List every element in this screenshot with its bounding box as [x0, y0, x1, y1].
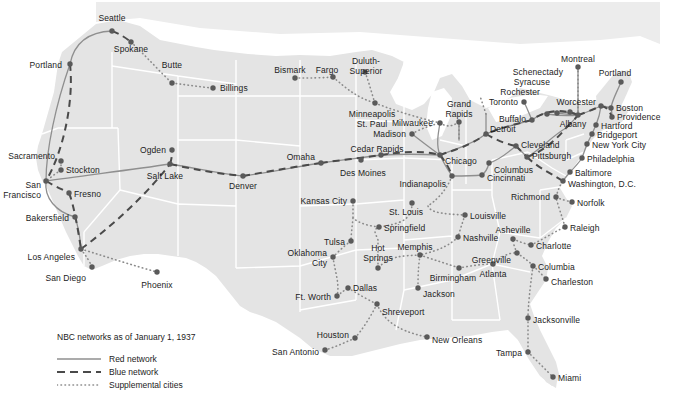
city-label-fargo: Fargo: [316, 66, 339, 76]
city-dot-seattle[interactable]: [109, 28, 114, 33]
city-dot-san-francisco[interactable]: [43, 178, 48, 183]
city-label-minneapolis: Minneapolis St. Paul: [349, 110, 395, 129]
city-dot-bismark[interactable]: [292, 75, 297, 80]
city-label-duluth: Duluth- Superior: [350, 57, 383, 76]
city-dot-houston[interactable]: [352, 335, 357, 340]
city-label-tampa: Tampa: [496, 349, 522, 359]
city-label-schenectady: Schenectady: [513, 68, 563, 78]
city-label-norfolk: Norfolk: [577, 199, 605, 209]
blue-network-swatch: [57, 367, 101, 377]
city-dot-bakersfield[interactable]: [72, 214, 77, 219]
city-dot-portland-or[interactable]: [67, 61, 72, 66]
city-dot-fresno[interactable]: [66, 190, 71, 195]
legend-title: NBC networks as of January 1, 1937: [57, 332, 195, 342]
city-dot-washington[interactable]: [560, 178, 565, 183]
city-dot-worcester[interactable]: [598, 103, 603, 108]
city-label-chicago: Chicago: [445, 157, 477, 167]
city-dot-hartford[interactable]: [593, 122, 598, 127]
city-label-rochester: Rochester: [500, 88, 540, 98]
city-dot-indianapolis[interactable]: [449, 173, 454, 178]
city-dot-rochester[interactable]: [544, 111, 549, 116]
city-dot-louisville[interactable]: [462, 212, 467, 217]
city-dot-portland-me[interactable]: [618, 79, 623, 84]
city-dot-boston[interactable]: [608, 105, 613, 110]
city-dot-charleston[interactable]: [543, 276, 548, 281]
red-network-swatch: [57, 354, 101, 364]
city-label-des-moines: Des Moines: [340, 169, 386, 179]
city-label-worcester: Worcester: [557, 98, 596, 108]
city-label-nashville: Nashville: [463, 234, 498, 244]
city-dot-ft-worth[interactable]: [334, 293, 339, 298]
city-dot-ogden[interactable]: [169, 147, 174, 152]
city-dot-los-angeles[interactable]: [78, 246, 83, 251]
city-dot-jackson[interactable]: [415, 285, 420, 290]
city-dot-schenectady[interactable]: [567, 109, 572, 114]
city-label-kansas-city: Kansas City: [301, 197, 347, 207]
city-dot-memphis[interactable]: [417, 252, 422, 257]
city-dot-dallas[interactable]: [345, 285, 350, 290]
city-dot-toronto[interactable]: [521, 99, 526, 104]
city-dot-minneapolis[interactable]: [372, 100, 377, 105]
legend-label-supplemental: Supplemental cities: [109, 380, 183, 390]
city-dot-pittsburgh[interactable]: [524, 154, 529, 159]
city-dot-denver[interactable]: [240, 173, 245, 178]
city-dot-miami[interactable]: [550, 374, 555, 379]
city-dot-greenville[interactable]: [514, 250, 519, 255]
map-legend: NBC networks as of January 1, 1937 Red n…: [57, 332, 195, 391]
city-label-bakersfield: Bakersfield: [26, 214, 69, 224]
city-dot-cleveland[interactable]: [513, 143, 518, 148]
city-dot-hot-springs[interactable]: [375, 265, 380, 270]
city-dot-shreveport[interactable]: [374, 301, 379, 306]
city-dot-san-antonio[interactable]: [322, 347, 327, 352]
city-dot-des-moines[interactable]: [358, 157, 363, 162]
city-dot-tulsa[interactable]: [348, 238, 353, 243]
city-dot-butte[interactable]: [169, 80, 174, 85]
city-dot-norfolk[interactable]: [569, 199, 574, 204]
city-dot-new-orleans[interactable]: [424, 334, 429, 339]
city-dot-sacramento[interactable]: [58, 158, 63, 163]
city-dot-buffalo[interactable]: [529, 117, 534, 122]
city-dot-madison[interactable]: [409, 131, 414, 136]
city-dot-grand-rapids[interactable]: [456, 119, 461, 124]
city-dot-oklahoma-city[interactable]: [330, 254, 335, 259]
city-dot-chicago[interactable]: [437, 152, 442, 157]
city-dot-salt-lake[interactable]: [167, 161, 172, 166]
city-dot-columbia[interactable]: [530, 263, 535, 268]
city-dot-jacksonville[interactable]: [525, 315, 530, 320]
city-dot-providence[interactable]: [609, 114, 614, 119]
city-dot-st-louis[interactable]: [409, 200, 414, 205]
city-dot-detroit[interactable]: [483, 131, 488, 136]
city-dot-cincinnati[interactable]: [479, 172, 484, 177]
city-dot-billings[interactable]: [210, 85, 215, 90]
city-dot-philadelphia[interactable]: [579, 155, 584, 160]
city-dot-columbus[interactable]: [486, 160, 491, 165]
city-label-jackson: Jackson: [423, 290, 455, 300]
city-dot-san-diego[interactable]: [89, 264, 94, 269]
city-label-salt-lake: Salt Lake: [147, 172, 183, 182]
city-label-greenville: Greenville: [472, 256, 511, 266]
city-dot-birmingham[interactable]: [456, 265, 461, 270]
city-dot-nashville[interactable]: [455, 234, 460, 239]
city-dot-syracuse[interactable]: [554, 110, 559, 115]
city-dot-stockton[interactable]: [58, 167, 63, 172]
city-dot-tampa[interactable]: [525, 349, 530, 354]
city-label-toronto: Toronto: [489, 98, 518, 108]
city-dot-baltimore[interactable]: [567, 169, 572, 174]
city-label-washington: Washington, D.C.: [568, 180, 636, 190]
city-label-albany: Albany: [560, 120, 587, 130]
city-dot-omaha[interactable]: [318, 160, 323, 165]
city-label-omaha: Omaha: [287, 153, 315, 163]
city-dot-milwaukee[interactable]: [437, 120, 442, 125]
city-dot-new-york[interactable]: [584, 141, 589, 146]
city-dot-richmond[interactable]: [553, 194, 558, 199]
city-dot-montreal[interactable]: [575, 64, 580, 69]
city-dot-springfield[interactable]: [376, 224, 381, 229]
city-dot-albany[interactable]: [575, 112, 580, 117]
city-dot-kansas-city[interactable]: [350, 198, 355, 203]
city-label-oklahoma-city: Oklahoma City: [287, 249, 327, 268]
city-dot-raleigh[interactable]: [562, 224, 567, 229]
city-dot-phoenix[interactable]: [154, 269, 159, 274]
city-dot-bridgeport[interactable]: [589, 131, 594, 136]
city-dot-asheville[interactable]: [510, 236, 515, 241]
city-dot-charlotte[interactable]: [528, 242, 533, 247]
